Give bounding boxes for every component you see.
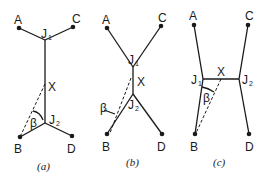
label-a: A xyxy=(102,13,110,27)
caption-c: (c) xyxy=(213,156,226,169)
label-d: D xyxy=(245,140,254,154)
panel-c: A C B D J 1 J 2 X β (c) xyxy=(189,9,254,169)
branch-c-j2 xyxy=(239,25,248,79)
label-b: B xyxy=(102,140,110,154)
caption-a: (a) xyxy=(37,160,50,173)
node-b xyxy=(105,132,110,137)
label-c: C xyxy=(72,12,81,26)
node-a xyxy=(192,23,197,28)
label-j2-sub: 2 xyxy=(56,120,60,127)
label-b: B xyxy=(14,142,22,156)
label-d: D xyxy=(157,140,166,154)
node-d xyxy=(247,132,252,137)
label-x: X xyxy=(137,75,145,89)
node-d xyxy=(160,132,165,137)
label-x: X xyxy=(217,65,225,79)
label-j2: J xyxy=(242,73,248,87)
label-j2-sub: 2 xyxy=(135,105,139,112)
label-c: C xyxy=(245,9,254,23)
label-j2-sub: 2 xyxy=(249,80,253,87)
dashed-projection xyxy=(196,79,221,133)
panel-b: A C B D J 1 J 2 X β (b) xyxy=(100,11,167,169)
label-j1-sub: 1 xyxy=(198,80,202,87)
node-c xyxy=(246,23,251,28)
panel-a: A C B D J 1 J 2 X β (a) xyxy=(14,12,81,173)
label-j1: J xyxy=(191,73,197,87)
label-d: D xyxy=(67,142,76,156)
label-a: A xyxy=(189,9,197,23)
label-c: C xyxy=(158,11,167,25)
label-beta: β xyxy=(30,116,37,130)
branch-d-j2 xyxy=(239,79,249,134)
label-a: A xyxy=(14,13,22,27)
node-d xyxy=(70,134,75,139)
label-beta: β xyxy=(203,91,210,105)
label-j1-sub: 1 xyxy=(135,60,139,67)
label-j2: J xyxy=(128,98,134,112)
node-b xyxy=(193,132,198,137)
label-x: X xyxy=(48,80,56,94)
label-j1: J xyxy=(41,27,47,41)
label-j1-sub: 1 xyxy=(48,34,52,41)
tree-diagram-figure: A C B D J 1 J 2 X β (a) A C B D J 1 J 2 … xyxy=(0,0,267,177)
caption-b: (b) xyxy=(126,156,139,169)
branch-a-j1 xyxy=(194,25,203,79)
node-b xyxy=(18,135,23,140)
label-b: B xyxy=(190,140,198,154)
label-j2: J xyxy=(49,113,55,127)
label-j1: J xyxy=(128,53,134,67)
branch-d-j2 xyxy=(133,94,162,134)
label-beta: β xyxy=(100,101,107,115)
